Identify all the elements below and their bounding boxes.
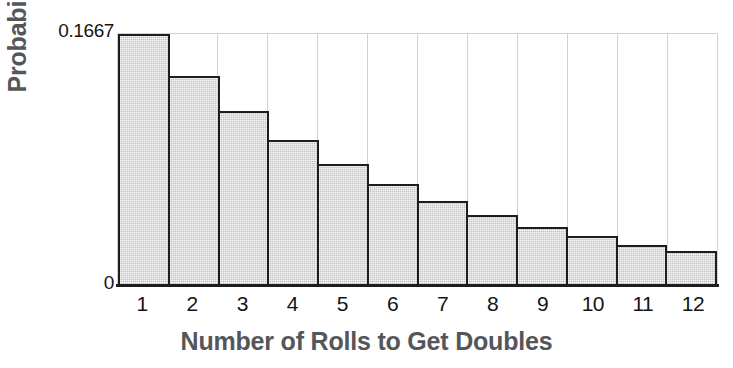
bar <box>516 227 568 285</box>
bar <box>566 236 618 285</box>
x-tick-label: 1 <box>117 290 167 320</box>
x-tick-label: 7 <box>417 290 467 320</box>
bar <box>267 140 319 285</box>
x-tick-label: 2 <box>167 290 217 320</box>
x-tick-label: 9 <box>518 290 568 320</box>
x-tick-label: 12 <box>668 290 718 320</box>
bar <box>218 111 270 285</box>
y-axis-title: Probability <box>0 0 34 129</box>
bar <box>118 34 170 285</box>
bar <box>417 201 469 285</box>
bar <box>665 251 717 285</box>
plot-area <box>117 33 718 285</box>
x-tick-label: 11 <box>618 290 668 320</box>
x-tick-label: 8 <box>468 290 518 320</box>
x-tick-labels: 123456789101112 <box>117 290 718 320</box>
bar <box>168 76 220 285</box>
x-tick-label: 3 <box>217 290 267 320</box>
y-tick-label-zero: 0 <box>104 272 114 294</box>
x-tick-label: 5 <box>317 290 367 320</box>
x-tick-label: 6 <box>367 290 417 320</box>
y-tick-label-max: 0.1667 <box>58 20 114 42</box>
x-axis-line <box>116 284 719 287</box>
bar <box>616 245 668 286</box>
bar <box>367 184 419 285</box>
bar <box>317 164 369 285</box>
x-tick-label: 4 <box>267 290 317 320</box>
bar-series <box>118 34 717 285</box>
x-axis-title: Number of Rolls to Get Doubles <box>0 327 733 356</box>
x-tick-label: 10 <box>568 290 618 320</box>
probability-bar-chart: Probability 0.1667 0 123456789101112 Num… <box>0 0 733 368</box>
bar <box>466 215 518 285</box>
